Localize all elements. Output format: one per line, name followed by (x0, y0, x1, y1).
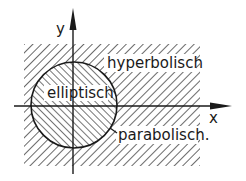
y-axis-arrow-icon (70, 8, 77, 30)
hyperbolic-label: hyperbolisch (107, 54, 203, 72)
parabolic-label: parabolisch. (118, 126, 209, 144)
elliptic-label: elliptisch (47, 84, 114, 102)
pde-classification-diagram: y x hyperbolisch elliptisch parabolisch. (0, 0, 246, 181)
x-axis-label: x (209, 109, 218, 127)
y-axis-label: y (56, 20, 65, 38)
